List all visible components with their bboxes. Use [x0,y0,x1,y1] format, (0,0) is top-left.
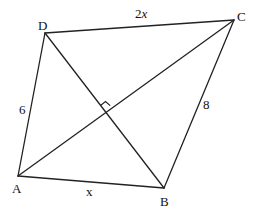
side-label-da: 6 [19,102,26,117]
side-label-cd: 2x [135,6,148,21]
side-label-bc: 8 [203,97,210,112]
vertex-label-d: D [38,18,47,33]
vertex-label-a: A [12,181,22,196]
quadrilateral-diagram: D C A B 2x 6 8 x [0,0,256,213]
right-angle-marker [101,102,111,106]
vertex-label-b: B [160,194,169,209]
vertex-label-c: C [237,9,246,24]
side-label-ab: x [86,184,93,199]
diagonal-bd [45,33,164,188]
side-cd [45,20,234,33]
